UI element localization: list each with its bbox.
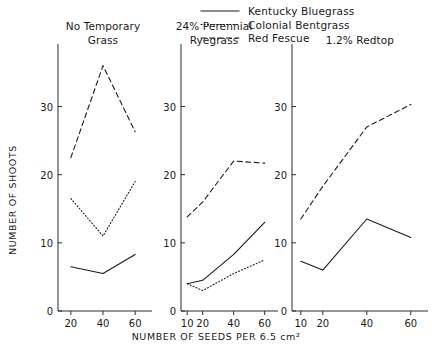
- panel-2: 24% PerennialRyegrass010203010204060: [163, 20, 278, 329]
- y-tick-label-1-2: 20: [40, 170, 53, 181]
- panel-1: No TemporaryGrass0102030204060: [40, 20, 152, 329]
- legend-label-colonial-bentgrass: Colonial Bentgrass: [248, 19, 350, 31]
- x-tick-label-3-0: 10: [294, 318, 307, 329]
- y-tick-label-2-0: 0: [170, 306, 176, 317]
- x-tick-label-3-2: 40: [360, 318, 373, 329]
- y-tick-label-3-2: 20: [274, 170, 287, 181]
- x-tick-label-2-3: 60: [258, 318, 271, 329]
- y-tick-label-2-1: 10: [163, 238, 176, 249]
- panel-3: 1.2% Redtop010203010204060: [274, 34, 428, 329]
- y-tick-label-3-1: 10: [274, 238, 287, 249]
- series-2-kentucky-bluegrass: [187, 222, 265, 283]
- series-1-red-fescue: [71, 66, 135, 158]
- x-tick-label-1-1: 40: [97, 318, 110, 329]
- x-tick-label-3-1: 20: [316, 318, 329, 329]
- x-tick-label-1-2: 60: [129, 318, 142, 329]
- y-tick-label-2-2: 20: [163, 170, 176, 181]
- x-tick-label-2-0: 10: [181, 318, 194, 329]
- panel-title-2: Ryegrass: [190, 34, 239, 46]
- series-2-colonial-bentgrass: [187, 260, 265, 291]
- series-3-red-fescue: [301, 104, 411, 219]
- y-tick-label-1-3: 30: [40, 102, 53, 113]
- series-2-red-fescue: [187, 161, 265, 217]
- series-1-colonial-bentgrass: [71, 182, 135, 237]
- x-tick-label-1-0: 20: [64, 318, 77, 329]
- y-tick-label-1-0: 0: [47, 306, 53, 317]
- legend-label-red-fescue: Red Fescue: [248, 32, 310, 44]
- x-tick-label-3-3: 60: [404, 318, 417, 329]
- y-tick-label-1-1: 10: [40, 238, 53, 249]
- x-tick-label-2-2: 40: [227, 318, 240, 329]
- x-axis-title: NUMBER OF SEEDS PER 6.5 cm²: [132, 331, 301, 342]
- panel-title-2: 24% Perennial: [176, 20, 253, 32]
- panel-title-1: Grass: [88, 34, 118, 46]
- grass-shoots-line-chart: Kentucky BluegrassColonial BentgrassRed …: [0, 0, 432, 352]
- y-tick-label-2-3: 30: [163, 102, 176, 113]
- y-tick-label-3-0: 0: [281, 306, 287, 317]
- panel-title-3: 1.2% Redtop: [326, 34, 395, 46]
- legend-label-kentucky-bluegrass: Kentucky Bluegrass: [248, 5, 354, 17]
- y-tick-label-3-3: 30: [274, 102, 287, 113]
- figure-container: Kentucky BluegrassColonial BentgrassRed …: [0, 0, 432, 352]
- y-axis-title: NUMBER OF SHOOTS: [7, 145, 18, 255]
- series-1-kentucky-bluegrass: [71, 254, 135, 273]
- series-3-kentucky-bluegrass: [301, 219, 411, 270]
- x-tick-label-2-1: 20: [196, 318, 209, 329]
- panel-title-1: No Temporary: [66, 20, 141, 32]
